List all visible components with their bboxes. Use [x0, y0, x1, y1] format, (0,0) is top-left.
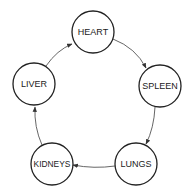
- node-label-heart: HEART: [78, 27, 109, 37]
- node-liver: LIVER: [13, 63, 55, 105]
- node-lungs: LUNGS: [115, 143, 157, 185]
- node-kidneys: KIDNEYS: [31, 143, 73, 185]
- diagram-canvas: HEART SPLEEN LUNGS KIDNEYS LIVER: [0, 0, 186, 195]
- arrow-liver-to-heart: [46, 44, 72, 66]
- arrow-kidneys-to-liver: [35, 107, 42, 145]
- node-spleen: SPLEEN: [139, 65, 181, 107]
- arrow-lungs-to-kidneys: [73, 165, 115, 167]
- arrow-heart-to-spleen: [113, 39, 146, 68]
- node-label-liver: LIVER: [21, 79, 48, 89]
- node-label-kidneys: KIDNEYS: [34, 159, 71, 169]
- node-label-lungs: LUNGS: [120, 159, 151, 169]
- cycle-diagram: HEART SPLEEN LUNGS KIDNEYS LIVER: [0, 0, 186, 195]
- node-heart: HEART: [72, 11, 114, 53]
- arrow-spleen-to-lungs: [146, 107, 155, 144]
- node-label-spleen: SPLEEN: [142, 81, 178, 91]
